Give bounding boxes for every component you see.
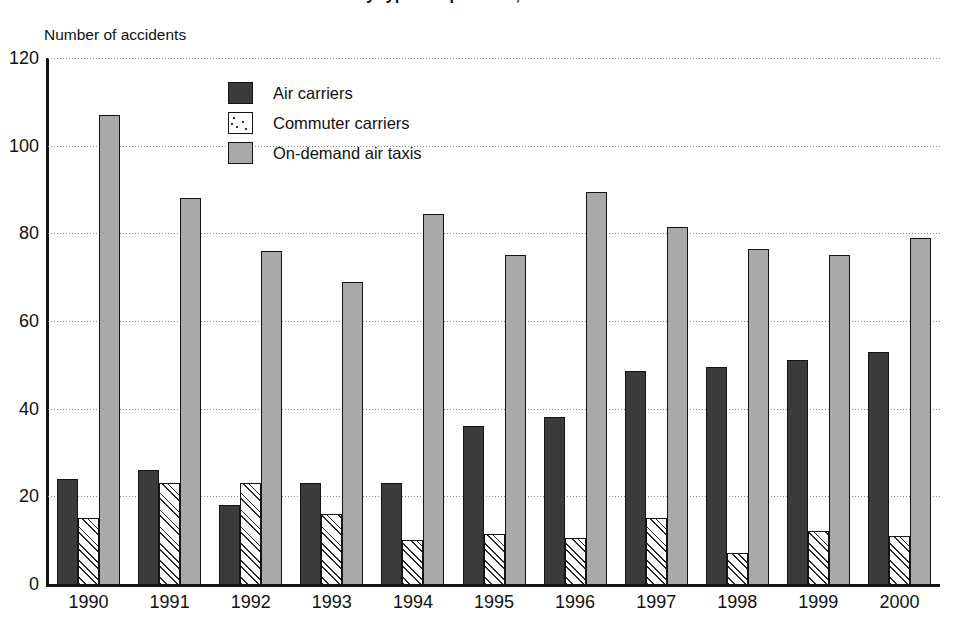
bar <box>99 115 120 584</box>
bar <box>544 417 565 584</box>
legend-label: Air carriers <box>273 84 353 103</box>
x-axis-tick-label: 1996 <box>555 592 595 613</box>
chart-title: Accidents and accident rates by type of … <box>0 0 959 4</box>
bar-group <box>706 58 769 584</box>
bar <box>180 198 201 584</box>
bar <box>57 479 78 584</box>
plot-area: 020406080100120 <box>48 58 940 584</box>
y-axis-title: Number of accidents <box>44 26 186 44</box>
bar-group <box>544 58 607 584</box>
bar <box>484 534 505 584</box>
x-axis-line <box>46 584 940 587</box>
x-axis-tick-label: 1995 <box>474 592 514 613</box>
bar <box>808 531 829 584</box>
bar <box>625 371 646 584</box>
bar <box>463 426 484 584</box>
bar <box>787 360 808 584</box>
bar <box>706 367 727 584</box>
x-axis-tick-label: 1990 <box>69 592 109 613</box>
chart-title-strip: Accidents and accident rates by type of … <box>0 0 959 6</box>
legend-label: Commuter carriers <box>273 114 410 133</box>
bar-group <box>787 58 850 584</box>
bar <box>565 538 586 584</box>
bar <box>381 483 402 584</box>
bar <box>423 214 444 584</box>
x-axis-tick-label: 1998 <box>717 592 757 613</box>
bar <box>342 282 363 584</box>
bar <box>889 536 910 584</box>
legend-swatch-icon <box>228 112 253 134</box>
bar <box>261 251 282 584</box>
x-axis-tick-label: 1991 <box>150 592 190 613</box>
bar-group <box>57 58 120 584</box>
bar-group <box>463 58 526 584</box>
y-axis-tick-label: 60 <box>19 311 39 332</box>
bar <box>829 255 850 584</box>
bar <box>586 192 607 584</box>
y-axis-tick-label: 40 <box>19 398 39 419</box>
y-axis-tick-label: 100 <box>9 135 39 156</box>
bar-group <box>868 58 931 584</box>
legend-label: On-demand air taxis <box>273 144 422 163</box>
chart-legend: Air carriersCommuter carriersOn-demand a… <box>228 82 422 164</box>
y-axis-tick-label: 0 <box>29 574 39 595</box>
bar <box>402 540 423 584</box>
bar-group <box>625 58 688 584</box>
legend-item: Commuter carriers <box>228 112 422 134</box>
bar <box>219 505 240 584</box>
legend-item: Air carriers <box>228 82 422 104</box>
x-axis-tick-label: 1997 <box>636 592 676 613</box>
legend-item: On-demand air taxis <box>228 142 422 164</box>
bar <box>748 249 769 584</box>
bar <box>300 483 321 584</box>
x-axis-ticks: 1990199119921993199419951996199719981999… <box>48 592 940 624</box>
x-axis-tick-label: 1992 <box>231 592 271 613</box>
bar <box>910 238 931 584</box>
legend-swatch-icon <box>228 142 253 164</box>
bar <box>78 518 99 584</box>
bar <box>868 352 889 584</box>
bar <box>159 483 180 584</box>
bar <box>138 470 159 584</box>
bar-group <box>138 58 201 584</box>
x-axis-tick-label: 1993 <box>312 592 352 613</box>
x-axis-tick-label: 1999 <box>798 592 838 613</box>
bar <box>646 518 667 584</box>
y-axis-tick-label: 80 <box>19 223 39 244</box>
bar <box>727 553 748 584</box>
legend-swatch-icon <box>228 82 253 104</box>
bar-groups <box>48 58 940 584</box>
bar <box>667 227 688 584</box>
bar <box>321 514 342 584</box>
bar <box>505 255 526 584</box>
y-axis-tick-label: 120 <box>9 48 39 69</box>
x-axis-tick-label: 2000 <box>879 592 919 613</box>
y-axis-tick-label: 20 <box>19 486 39 507</box>
x-axis-tick-label: 1994 <box>393 592 433 613</box>
bar <box>240 483 261 584</box>
